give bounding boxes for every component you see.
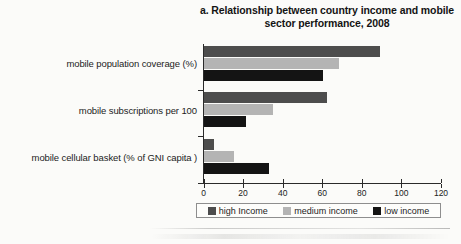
x-tick-label-0: 0 — [201, 188, 206, 198]
legend-label-medium: medium income — [294, 206, 358, 216]
x-tick-upper-40 — [283, 179, 284, 183]
bar-medium-group-1 — [204, 58, 339, 69]
x-tick-upper-20 — [243, 179, 244, 183]
chart-legend: high Incomemedium incomelow income — [196, 203, 441, 218]
x-tick-upper-120 — [441, 179, 442, 183]
x-tick-label-80: 80 — [357, 188, 366, 198]
bar-high-group-2 — [204, 92, 327, 103]
legend-swatch-high — [208, 207, 216, 215]
legend-swatch-medium — [283, 207, 291, 215]
x-tick-upper-60 — [322, 179, 323, 183]
scan-artifact-smudge — [150, 234, 450, 239]
legend-item-low: low income — [373, 206, 429, 216]
category-label-basket: mobile cellular basket (% of GNI capita … — [32, 152, 197, 163]
x-tick-label-40: 40 — [278, 188, 287, 198]
legend-item-medium: medium income — [283, 206, 358, 216]
legend-swatch-low — [373, 207, 381, 215]
bar-medium-group-3 — [204, 151, 234, 162]
legend-label-high: high Income — [219, 206, 268, 216]
x-tick-label-120: 120 — [434, 188, 448, 198]
category-label-coverage: mobile population coverage (%) — [66, 58, 197, 69]
y-axis-separator-3 — [198, 183, 204, 184]
legend-label-low: low income — [384, 206, 429, 216]
bar-low-group-1 — [204, 70, 323, 81]
x-tick-label-100: 100 — [394, 188, 408, 198]
bar-low-group-2 — [204, 116, 246, 127]
x-tick-label-60: 60 — [318, 188, 327, 198]
x-tick-label-20: 20 — [238, 188, 247, 198]
x-tick-upper-80 — [362, 179, 363, 183]
scan-artifact-line — [150, 228, 450, 229]
bar-high-group-3 — [204, 139, 214, 150]
y-axis-separator-1 — [198, 90, 204, 91]
y-axis-separator-2 — [198, 136, 204, 137]
chart-figure: a. Relationship between country income a… — [0, 0, 461, 244]
legend-item-high: high Income — [208, 206, 268, 216]
bar-high-group-1 — [204, 46, 380, 57]
bar-medium-group-2 — [204, 104, 273, 115]
bar-low-group-3 — [204, 163, 269, 174]
category-label-subscriptions: mobile subscriptions per 100 — [79, 105, 197, 116]
x-tick-upper-100 — [401, 179, 402, 183]
